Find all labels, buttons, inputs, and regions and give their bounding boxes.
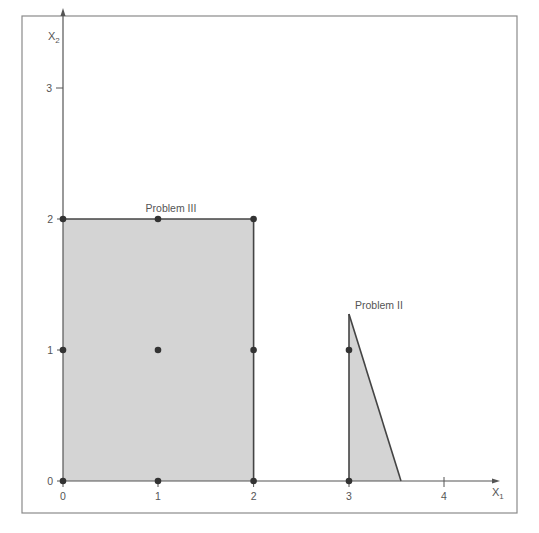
y-tick-label: 2 xyxy=(47,213,53,225)
point xyxy=(346,478,353,485)
point xyxy=(155,478,162,485)
point xyxy=(250,216,257,223)
chart-canvas: 0 1 2 3 4 0 1 2 3 X2 X1 Problem III Prob… xyxy=(0,0,539,533)
y-tick-label: 3 xyxy=(46,82,52,94)
region-label-problem-ii: Problem II xyxy=(355,299,403,311)
x-axis-label: X1 xyxy=(492,486,504,501)
point xyxy=(346,347,353,354)
x-tick-label: 4 xyxy=(441,490,447,502)
y-tick-label: 1 xyxy=(47,344,53,356)
point xyxy=(60,216,67,223)
x-tick-label: 2 xyxy=(251,490,257,502)
point xyxy=(155,347,162,354)
x-tick-label: 3 xyxy=(346,490,352,502)
region-problem-ii xyxy=(349,314,401,481)
point xyxy=(60,478,67,485)
x-tick-label: 0 xyxy=(60,490,66,502)
x-tick-label: 1 xyxy=(155,490,161,502)
y-tick-label: 0 xyxy=(47,475,53,487)
point xyxy=(155,216,162,223)
point xyxy=(250,478,257,485)
y-axis-label: X2 xyxy=(48,30,60,45)
point xyxy=(250,347,257,354)
region-label-problem-iii: Problem III xyxy=(146,202,197,214)
point xyxy=(60,347,67,354)
